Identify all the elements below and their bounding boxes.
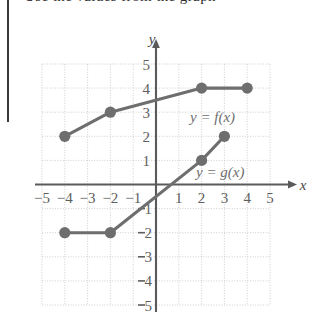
curve-label-g: y = g(x) [194, 164, 244, 181]
y-tick-1: 1 [143, 153, 151, 169]
point-f--4-2 [59, 131, 70, 142]
point-f-4-4 [242, 83, 253, 94]
x-tick--1: −1 [125, 190, 141, 206]
coordinate-graph: −5 −4 −3 −2 −1 1 2 3 4 5 5 4 3 2 1 1 2 3… [0, 0, 318, 336]
y-tick--3: 3 [145, 249, 153, 265]
point-g--2--2 [105, 227, 116, 238]
x-tick--5: −5 [34, 190, 50, 206]
point-f-2-4 [196, 83, 207, 94]
y-tick--4: 4 [145, 273, 153, 289]
x-tick-4: 4 [243, 190, 251, 206]
x-tick-2: 2 [198, 190, 206, 206]
point-g-3-2 [219, 131, 230, 142]
x-tick-3: 3 [221, 190, 229, 206]
x-tick-5: 5 [266, 190, 274, 206]
y-tick--5: 5 [145, 298, 153, 314]
x-tick-1: 1 [175, 190, 183, 206]
x-tick--3: −3 [80, 190, 96, 206]
x-axis-arrow [288, 181, 297, 189]
y-tick-4: 4 [143, 81, 151, 97]
y-axis-label: y [147, 31, 156, 47]
y-tick-3: 3 [143, 105, 151, 121]
x-axis-label: x [299, 177, 307, 193]
y-tick--2: 2 [145, 225, 153, 241]
x-tick--4: −4 [57, 190, 73, 206]
point-f--2-3 [105, 107, 116, 118]
point-g--4--2 [59, 227, 70, 238]
y-tick-2: 2 [143, 129, 151, 145]
y-tick-5: 5 [143, 57, 151, 73]
x-tick--2: −2 [102, 190, 118, 206]
curve-label-f: y = f(x) [188, 109, 235, 126]
y-negative-minus-marks [138, 209, 145, 305]
